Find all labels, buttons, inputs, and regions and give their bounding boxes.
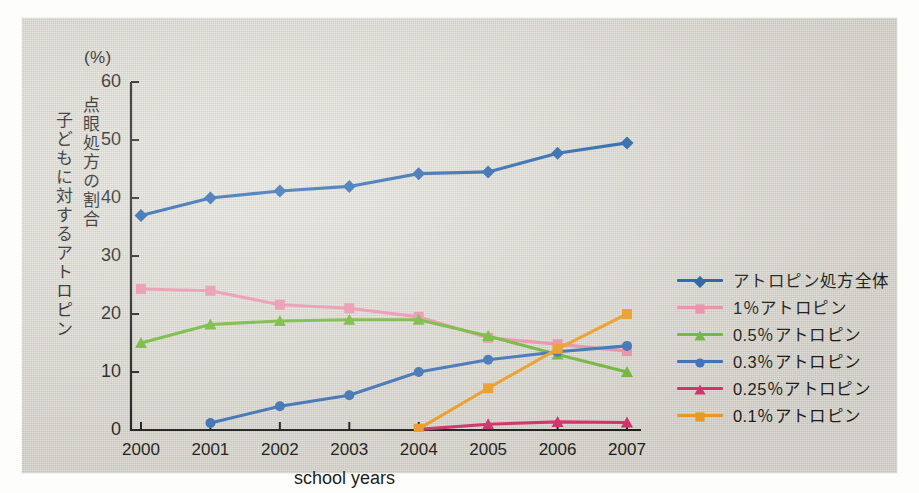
x-tick-2002: 2002 [251,440,309,460]
legend-item-6[interactable]: 0.1％アトロピン [677,401,890,428]
chart-svg [129,80,644,432]
y-tick-50: 50 [87,129,121,150]
x-tick-2004: 2004 [390,440,448,460]
marker-diamond [482,165,495,178]
y-tick-20: 20 [87,303,121,324]
series-line [419,314,627,429]
marker-triangle [694,384,705,394]
series-line [419,422,627,430]
marker-diamond [621,136,634,149]
marker-square [483,383,493,393]
marker-triangle [694,330,705,340]
marker-circle [483,355,493,365]
series-4 [205,341,632,428]
marker-square [695,412,704,421]
marker-diamond [694,276,706,288]
marker-circle [622,341,632,351]
marker-circle [344,390,354,400]
marker-square [622,309,632,319]
y-axis-caption-outer: 子どもに対するアトロピン [50,111,75,339]
x-tick-2005: 2005 [459,440,517,460]
legend-item-5[interactable]: 0.25％アトロピン [677,374,890,401]
legend-item-4[interactable]: 0.3％アトロピン [677,347,890,374]
x-tick-2001: 2001 [181,440,239,460]
marker-square [205,286,215,296]
y-tick-30: 30 [87,245,121,266]
marker-circle [275,401,285,411]
marker-square [136,284,146,294]
screenshot-canvas: (%) 子どもに対するアトロピン 点眼処方の割合 0102030405060 2… [0,0,919,493]
legend-key-circle-icon [677,354,723,368]
marker-diamond [135,209,148,222]
x-tick-2003: 2003 [320,440,378,460]
legend-label: 0.3％アトロピン [733,349,862,373]
marker-diamond [273,185,286,198]
legend-item-3[interactable]: 0.5％アトロピン [677,320,890,347]
legend-key-square-icon [677,408,723,422]
legend-label: アトロピン処方全体 [733,268,890,292]
series-1 [135,136,634,222]
axis-spines [131,82,641,430]
marker-square [344,303,354,313]
x-axis-title: school years [294,468,395,489]
marker-square [695,304,704,313]
y-tick-0: 0 [87,419,121,440]
marker-square [553,344,563,354]
scanned-chart-figure: (%) 子どもに対するアトロピン 点眼処方の割合 0102030405060 2… [22,18,897,473]
legend-label: 0.25％アトロピン [733,376,871,400]
marker-circle [414,367,424,377]
marker-square [414,424,424,432]
legend-key-square-icon [677,300,723,314]
line-chart-plot-area [129,80,644,432]
legend-key-triangle-icon [677,327,723,341]
legend-label: 1％アトロピン [733,295,847,319]
legend-item-2[interactable]: 1％アトロピン [677,293,890,320]
marker-circle [695,358,704,367]
marker-diamond [343,180,356,193]
marker-square [275,300,285,310]
legend-key-diamond-icon [677,273,723,287]
x-tick-2000: 2000 [112,440,170,460]
x-tick-2007: 2007 [598,440,656,460]
y-axis-caption-inner: 点眼処方の割合 [77,96,102,229]
legend-item-1[interactable]: アトロピン処方全体 [677,266,890,293]
legend-label: 0.1％アトロピン [733,403,862,427]
legend-key-triangle-icon [677,381,723,395]
marker-diamond [551,147,564,160]
y-axis-unit-label: (%) [84,48,111,68]
marker-diamond [204,192,217,205]
legend-label: 0.5％アトロピン [733,322,862,346]
marker-diamond [412,167,425,180]
chart-legend: アトロピン処方全体1％アトロピン0.5％アトロピン0.3％アトロピン0.25％ア… [677,266,890,428]
y-tick-60: 60 [87,71,121,92]
y-tick-10: 10 [87,361,121,382]
y-tick-40: 40 [87,187,121,208]
marker-circle [205,418,215,428]
x-tick-2006: 2006 [529,440,587,460]
